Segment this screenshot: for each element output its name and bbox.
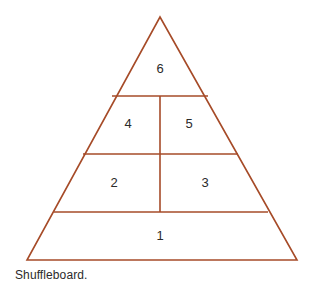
- zone-number-5: 5: [185, 116, 192, 131]
- triangle-outline: [27, 17, 297, 260]
- zone-number-2: 2: [110, 175, 117, 190]
- zone-number-4: 4: [124, 116, 131, 131]
- shuffleboard-diagram: 6 4 5 2 3 1: [0, 0, 316, 289]
- shuffleboard-figure: 6 4 5 2 3 1 Shuffleboard.: [0, 0, 316, 289]
- zone-number-3: 3: [201, 175, 208, 190]
- figure-caption: Shuffleboard.: [15, 268, 87, 283]
- zone-number-6: 6: [156, 61, 163, 76]
- zone-number-1: 1: [156, 228, 163, 243]
